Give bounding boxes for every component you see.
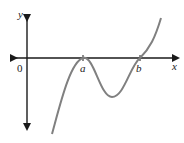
point-a-label: a <box>80 62 86 74</box>
function-curve <box>52 18 161 134</box>
function-graph: y x 0 a b <box>0 0 184 143</box>
point-b-label: b <box>136 62 142 74</box>
x-axis-label: x <box>171 60 177 72</box>
y-axis-label: y <box>17 8 23 20</box>
origin-label: 0 <box>17 62 23 74</box>
